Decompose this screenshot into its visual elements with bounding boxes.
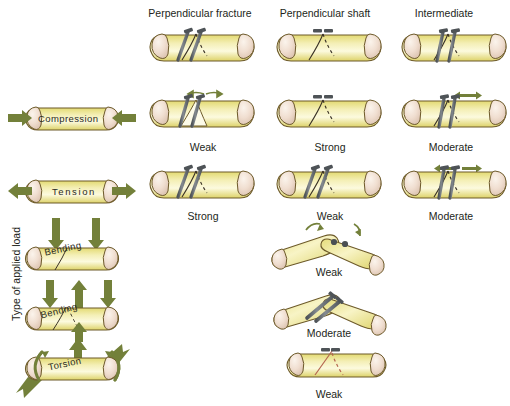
result-r1c3: Moderate [400,141,502,153]
load-diagram-torsion [8,336,136,402]
result-bending-2: Moderate [268,327,390,339]
column-header-intermediate: Intermediate [390,7,498,19]
column-header-perpendicular-fracture: Perpendicular fracture [140,7,260,19]
bone-torsion [285,348,389,388]
result-bending-1: Weak [268,266,390,278]
bone-r0c2 [275,28,385,73]
bone-r2c2 [275,166,385,208]
bone-r2c1 [148,166,258,208]
bone-r0c3 [400,28,510,73]
load-label-compression: Compression [38,113,98,124]
bone-bending-1 [268,222,390,272]
bone-r1c1 [148,88,258,136]
result-r2c3: Moderate [400,210,502,222]
bone-r2c3 [400,160,510,208]
result-torsion: Weak [268,388,390,400]
column-header-perpendicular-shaft: Perpendicular shaft [265,7,385,19]
bone-r1c3 [400,88,510,136]
bone-r1c2 [275,88,385,136]
result-r1c2: Strong [275,141,385,153]
load-label-tension: Tension [52,186,96,197]
result-r2c1: Strong [148,210,258,222]
result-r1c1: Weak [148,141,258,153]
bone-r0c1 [148,28,258,73]
result-r2c2: Weak [275,210,385,222]
